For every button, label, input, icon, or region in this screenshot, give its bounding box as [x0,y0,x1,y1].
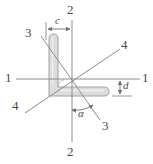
axis-label-3-start: 3 [25,26,32,39]
angle-label-alpha: α [78,108,84,119]
angle-section-fillet [58,80,64,87]
axis-label-4-end: 4 [121,38,128,51]
axis-label-4-start: 4 [12,99,19,112]
axis-label-1-right: 1 [142,71,149,84]
dimension-label-c: c [55,15,60,26]
angle-section-shape [49,34,109,96]
diagram-canvas [0,0,153,164]
axis-label-2-top: 2 [67,3,74,16]
axis-label-1-left: 1 [5,71,12,84]
axis-label-2-bottom: 2 [67,145,74,158]
dimension-label-d: d [123,80,129,91]
dimension-d-group [112,81,132,96]
axis-label-3-end: 3 [102,119,109,132]
angle-section-diagram: 1 1 2 2 3 3 4 4 c d α [0,0,153,164]
